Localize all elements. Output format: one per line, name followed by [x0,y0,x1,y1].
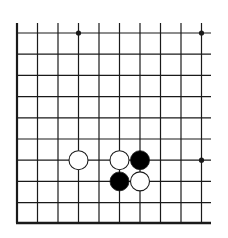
white-stone-icon [131,172,150,191]
go-board [0,0,228,238]
white-stone-icon [110,151,129,170]
white-stone-icon [69,151,88,170]
stones [69,151,150,191]
star-point-icon [76,30,81,35]
star-point-icon [199,158,204,163]
black-stone-icon [110,172,129,191]
star-point-icon [199,30,204,35]
black-stone-icon [131,151,150,170]
board-grid [16,23,211,223]
